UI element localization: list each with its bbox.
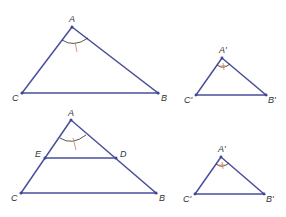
label-b: B bbox=[161, 93, 167, 103]
vertex-a bbox=[71, 26, 74, 29]
triangle-abc-bottom-edges bbox=[21, 120, 156, 193]
vertex-c-prime-bottom bbox=[194, 193, 197, 196]
triangle-abc-with-ed: A E D C B bbox=[11, 108, 165, 203]
vertex-e bbox=[44, 157, 47, 160]
vertex-d bbox=[115, 157, 118, 160]
label-b-prime-bottom: B' bbox=[266, 194, 274, 204]
vertex-a-prime-bottom bbox=[220, 156, 223, 159]
vertex-c-prime bbox=[195, 94, 198, 97]
vertex-b bbox=[157, 92, 160, 95]
label-c: C bbox=[12, 93, 19, 103]
label-e: E bbox=[35, 149, 42, 159]
label-a-prime: A' bbox=[218, 45, 227, 55]
similar-triangles-diagram: A C B A' C' B' A E D C B bbox=[0, 0, 286, 217]
angle-a-bottom-tick bbox=[73, 138, 76, 150]
label-c-bottom: C bbox=[11, 193, 18, 203]
triangle-a-prime-bottom-edges bbox=[195, 157, 264, 194]
triangle-a-prime-top: A' C' B' bbox=[184, 45, 276, 105]
vertex-b-prime bbox=[265, 94, 268, 97]
triangle-abc-top: A C B bbox=[12, 14, 167, 103]
label-d: D bbox=[120, 149, 127, 159]
vertex-c bbox=[21, 92, 24, 95]
vertex-b-bottom bbox=[155, 192, 158, 195]
label-c-prime-bottom: C' bbox=[183, 194, 191, 204]
triangle-a-prime-bottom: A' C' B' bbox=[183, 144, 274, 204]
label-a-bottom: A bbox=[67, 108, 74, 118]
vertex-a-prime bbox=[221, 57, 224, 60]
label-a: A bbox=[68, 14, 75, 24]
vertex-b-prime-bottom bbox=[263, 193, 266, 196]
triangle-a-prime-edges bbox=[196, 58, 266, 95]
label-b-bottom: B bbox=[159, 193, 165, 203]
label-a-prime-bottom: A' bbox=[217, 144, 226, 154]
triangle-abc-edges bbox=[22, 27, 158, 93]
label-c-prime: C' bbox=[184, 95, 192, 105]
vertex-c-bottom bbox=[20, 192, 23, 195]
label-b-prime: B' bbox=[268, 95, 276, 105]
vertex-a-bottom bbox=[70, 119, 73, 122]
